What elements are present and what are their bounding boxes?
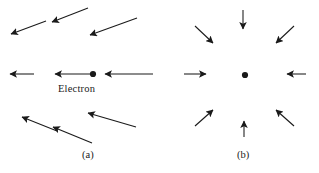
panel-a (10, 8, 153, 143)
arrow-lower-left (22, 117, 57, 131)
electron-label: Electron (58, 84, 95, 95)
caption-panel-a: (a) (82, 150, 94, 161)
arrow-upper-left (195, 26, 213, 43)
arrow-lower-right (88, 113, 136, 127)
arrow-upper-left-outer (11, 21, 46, 34)
arrow-upper-left-inner (52, 8, 88, 22)
arrow-upper-right (276, 26, 294, 43)
arrow-upper-right (90, 18, 137, 35)
arrow-lower-middle (53, 127, 92, 143)
arrow-lower-left (195, 110, 213, 126)
arrow-lower-right (276, 110, 294, 126)
panel-b (184, 10, 306, 137)
point-charge-dot (242, 72, 248, 78)
field-vector-canvas (0, 0, 319, 173)
caption-panel-b: (b) (237, 150, 249, 161)
figure-root: Electron (a) (b) (0, 0, 319, 173)
panel-a-arrow-group (10, 8, 153, 143)
electron-point-charge-dot (90, 71, 96, 77)
